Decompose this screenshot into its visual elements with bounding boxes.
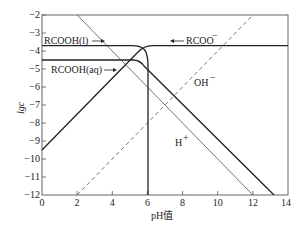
- label-rcooh-aq: RCOOH(aq): [51, 64, 102, 76]
- superscript-plus: +: [183, 132, 189, 143]
- y-tick: −8: [29, 117, 40, 128]
- x-tick: 2: [75, 197, 80, 208]
- annotation-rcooh-aq: RCOOH(aq): [51, 64, 117, 76]
- annotation-oh-minus: OH −: [194, 72, 216, 88]
- y-tick: −10: [24, 153, 40, 164]
- label-rcoo: RCOO: [186, 35, 214, 46]
- y-tick: −6: [29, 81, 40, 92]
- y-tick-labels: −2 −3 −4 −5 −6 −7 −8 −9 −10 −11 −12: [24, 9, 40, 200]
- superscript-minus: −: [212, 30, 218, 41]
- series-rcoo-minus: [42, 46, 288, 150]
- x-tick: 8: [180, 197, 185, 208]
- y-tick: −2: [29, 9, 40, 20]
- y-axis-label: lgc: [15, 101, 26, 114]
- annotation-rcoo-minus: RCOO −: [170, 30, 218, 46]
- x-tick: 6: [145, 197, 150, 208]
- x-tick-labels: 0 2 4 6 8 10 12 14: [40, 197, 292, 208]
- chart: −2 −3 −4 −5 −6 −7 −8 −9 −10 −11 −12 0 2 …: [0, 0, 302, 227]
- arrowhead-icon: [170, 39, 174, 43]
- series-rcooh-aq: [42, 60, 274, 195]
- y-tick: −5: [29, 63, 40, 74]
- label-h: H: [175, 137, 182, 148]
- x-axis: [77, 191, 253, 195]
- y-tick: −11: [25, 171, 40, 182]
- label-oh: OH: [194, 77, 208, 88]
- x-axis-label: pH值: [151, 209, 173, 221]
- y-tick: −7: [29, 99, 40, 110]
- arrowhead-icon: [113, 68, 117, 72]
- annotation-h-plus: H +: [175, 132, 189, 148]
- x-tick: 0: [40, 197, 45, 208]
- x-tick: 10: [213, 197, 223, 208]
- label-rcooh-l: RCOOH(l): [44, 35, 88, 47]
- y-tick: −3: [29, 27, 40, 38]
- x-tick: 12: [248, 197, 258, 208]
- y-tick: −12: [24, 189, 40, 200]
- x-tick: 4: [110, 197, 115, 208]
- y-tick: −4: [29, 45, 40, 56]
- x-tick: 14: [281, 197, 291, 208]
- y-tick: −9: [29, 135, 40, 146]
- superscript-minus: −: [210, 72, 216, 83]
